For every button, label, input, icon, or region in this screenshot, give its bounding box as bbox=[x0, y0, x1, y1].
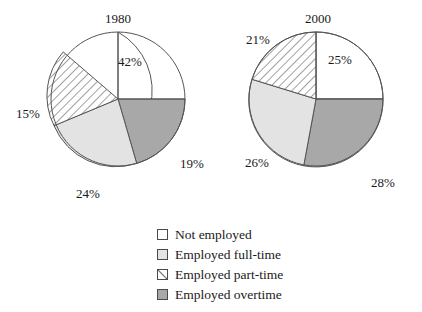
legend-item-employed-full-time: Employed full-time bbox=[157, 246, 281, 263]
legend-label-employed-part-time: Employed part-time bbox=[175, 268, 283, 282]
legend-item-not-employed: Not employed bbox=[157, 226, 252, 243]
slice-2000-employed-overtime bbox=[304, 99, 383, 167]
pct-label-2000-employed-full-time: 26% bbox=[245, 155, 269, 170]
white-swatch bbox=[157, 229, 168, 240]
pct-label-1980-employed-full-time: 24% bbox=[76, 186, 100, 201]
pct-label-1980-employed-part-time: 15% bbox=[16, 106, 40, 121]
pie-title-2000: 2000 bbox=[305, 11, 331, 26]
legend-item-employed-part-time: Employed part-time bbox=[157, 266, 283, 283]
pct-label-2000-employed-part-time: 21% bbox=[246, 32, 270, 47]
legend-label-employed-full-time: Employed full-time bbox=[175, 248, 281, 262]
legend-label-employed-overtime: Employed overtime bbox=[175, 288, 282, 302]
pie-chart-2000: 2000 25% 28% 26% 21% bbox=[245, 11, 395, 190]
hatched-swatch bbox=[157, 269, 168, 280]
pie-title-1980: 1980 bbox=[105, 11, 131, 26]
dark-gray-swatch bbox=[157, 289, 168, 300]
pie-chart-figure: 1980 42% 19% 24% 15% 2000 25% 28% 26% 21… bbox=[0, 0, 422, 312]
legend-item-employed-overtime: Employed overtime bbox=[157, 286, 282, 303]
pct-label-1980-employed-overtime: 19% bbox=[180, 156, 204, 171]
legend-label-not-employed: Not employed bbox=[175, 228, 252, 242]
pct-label-1980-not-employed: 42% bbox=[118, 54, 142, 69]
pct-label-2000-employed-overtime: 28% bbox=[371, 175, 395, 190]
light-gray-swatch bbox=[157, 249, 168, 260]
pct-label-2000-not-employed: 25% bbox=[328, 52, 352, 67]
pie-chart-1980: 1980 42% 19% 24% 15% bbox=[16, 11, 204, 201]
